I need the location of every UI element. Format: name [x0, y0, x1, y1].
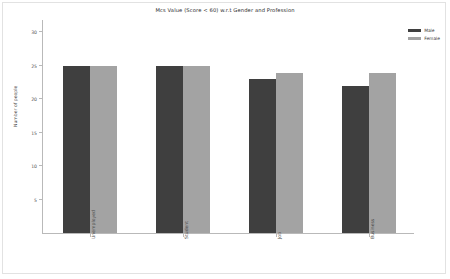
legend-entry-female: Female: [408, 36, 440, 41]
chart-title: Mcs Value (Score < 60) w.r.t Gender and …: [0, 7, 450, 13]
y-tick-label: 30: [31, 30, 37, 35]
y-tick-label: 15: [31, 130, 37, 135]
y-tick-label: 25: [31, 63, 37, 68]
bar-female-unemployed: [90, 66, 117, 233]
x-axis-label: Job: [277, 232, 282, 239]
x-axis-label: Unemployed: [91, 210, 96, 239]
bars-layer: [43, 20, 414, 233]
y-tick-label: 5: [34, 197, 37, 202]
bar-male-job: [249, 79, 276, 233]
bar-male-student: [156, 66, 183, 233]
plot-area: 51015202530: [42, 20, 414, 234]
y-axis-title: Number of people: [13, 86, 18, 127]
bar-male-business: [342, 86, 369, 233]
chart-figure: Mcs Value (Score < 60) w.r.t Gender and …: [0, 0, 450, 279]
bar-group: [156, 20, 210, 233]
legend-entry-male: Male: [408, 28, 440, 33]
bar-male-unemployed: [63, 66, 90, 233]
chart-legend: MaleFemale: [408, 28, 440, 41]
legend-swatch-female: [408, 37, 421, 41]
bar-female-student: [183, 66, 210, 233]
legend-label: Male: [424, 28, 434, 33]
bar-female-job: [276, 73, 303, 234]
y-tick-label: 10: [31, 164, 37, 169]
x-axis-label: Student: [184, 221, 189, 239]
bar-group: [342, 20, 396, 233]
bar-group: [63, 20, 117, 233]
bar-female-business: [369, 73, 396, 234]
y-tick-label: 20: [31, 97, 37, 102]
legend-swatch-male: [408, 29, 421, 33]
legend-label: Female: [424, 36, 440, 41]
x-axis-label: Business: [370, 219, 375, 239]
bar-group: [249, 20, 303, 233]
